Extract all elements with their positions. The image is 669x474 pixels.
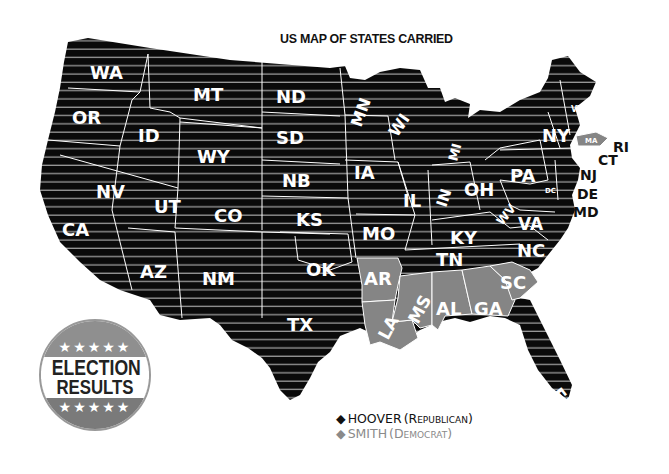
label-CT: CT [598,152,618,168]
label-IL: IL [403,190,421,211]
label-KY: KY [450,227,478,248]
outside-labels: RI CT NJ DE MD [573,139,629,220]
legend: ◆ HOOVER (Republican) ◆ SMITH (Democrat) [336,411,473,441]
label-ME: ME [597,80,619,95]
label-TX: TX [287,314,313,335]
legend-democrat-party: (Democrat) [389,426,452,441]
label-CO: CO [214,205,243,226]
label-NV: NV [96,181,125,202]
label-SD: SD [276,127,304,148]
label-OR: OR [72,107,101,128]
label-ND: ND [276,86,306,107]
label-UT: UT [154,196,182,217]
label-MD: MD [573,204,599,220]
label-TN: TN [436,249,463,270]
legend-item-democrat: ◆ SMITH (Democrat) [336,426,473,441]
label-ID: ID [138,125,160,146]
label-NB: NB [282,170,311,191]
label-VT: VT [571,105,583,114]
label-CA: CA [62,219,89,240]
legend-republican-name: HOOVER [348,411,402,426]
label-NJ: NJ [580,167,597,183]
label-AR: AR [364,268,392,289]
label-OH: OH [464,179,494,200]
diamond-icon: ◆ [336,426,346,441]
label-FL: FL [547,384,578,416]
label-PA: PA [510,165,536,186]
label-MA: MA [585,137,598,145]
diamond-icon: ◆ [336,411,346,426]
label-VA: VA [518,214,544,234]
label-GA: GA [474,298,503,319]
label-IA: IA [354,162,375,183]
label-NY: NY [542,125,571,146]
stars-top-icon: ★★★★★ [41,339,149,355]
legend-republican-party: (Republican) [404,411,473,426]
label-OK: OK [306,259,336,280]
label-KS: KS [296,209,323,230]
legend-item-republican: ◆ HOOVER (Republican) [336,411,473,426]
label-DC: DC [545,187,556,195]
label-SC: SC [500,272,526,293]
election-results-badge: ★★★★★ ELECTION RESULTS ★★★★★ [39,319,151,431]
label-NC: NC [517,240,545,261]
label-MT: MT [193,84,224,105]
legend-democrat-name: SMITH [348,426,387,441]
label-WY: WY [197,146,231,167]
label-WA: WA [90,62,123,83]
badge-line2: RESULTS [52,375,138,399]
label-DE: DE [577,186,598,202]
label-AZ: AZ [140,261,167,282]
label-NM: NM [202,268,235,289]
label-AL: AL [436,298,461,319]
stars-bottom-icon: ★★★★★ [41,399,149,415]
label-NH: NH [583,118,596,127]
label-MO: MO [362,223,395,244]
